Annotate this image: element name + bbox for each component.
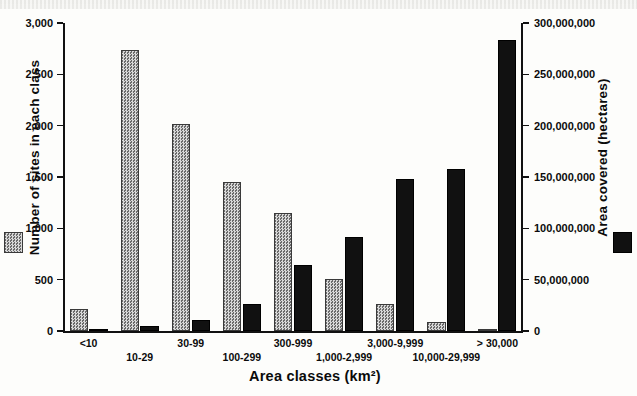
category-label-5: 300-999	[274, 338, 313, 349]
bar-sites-6	[325, 279, 343, 331]
bar-sites-7	[376, 304, 394, 331]
left-tick-label: 0	[47, 326, 53, 337]
bar-sites-2	[121, 50, 139, 331]
category-label-2: 10-29	[126, 352, 153, 363]
category-label-6: 1,000-2,999	[316, 352, 372, 363]
right-tick-label: 250,000,000	[534, 69, 595, 80]
category-label-9: > 30,000	[477, 338, 518, 349]
right-tick-label: 300,000,000	[534, 18, 595, 29]
right-tick-label: 200,000,000	[534, 120, 595, 131]
right-tick-label: 150,000,000	[534, 172, 595, 183]
left-tick-label: 2,000	[25, 120, 53, 131]
left-axis-title: Number of sites in each class	[27, 28, 42, 288]
bar-area-2	[140, 326, 158, 331]
bar-area-1	[89, 329, 107, 331]
left-tick-label: 3,000	[25, 18, 53, 29]
left-tick-mark	[57, 330, 63, 332]
left-tick-mark	[57, 176, 63, 178]
bar-area-8	[447, 169, 465, 331]
left-tick-label: 1,000	[25, 223, 53, 234]
bar-sites-9	[478, 329, 496, 331]
right-tick-label: 50,000,000	[534, 274, 589, 285]
right-tick-mark	[523, 176, 529, 178]
bar-area-9	[498, 40, 516, 331]
plot-area: 05001,0001,5002,0002,5003,000 050,000,00…	[63, 18, 523, 331]
right-tick-mark	[523, 228, 529, 230]
left-tick-mark	[57, 125, 63, 127]
legend-swatch-area	[613, 232, 632, 253]
legend-swatch-sites	[4, 232, 23, 253]
x-axis-line	[63, 331, 523, 333]
right-tick-mark	[523, 125, 529, 127]
bar-sites-3	[172, 124, 190, 331]
right-tick-label: 0	[534, 326, 540, 337]
category-label-4: 100-299	[223, 352, 262, 363]
bar-sites-1	[70, 309, 88, 331]
category-label-1: <10	[80, 338, 98, 349]
left-tick-mark	[57, 74, 63, 76]
bar-area-7	[396, 179, 414, 331]
left-tick-label: 500	[35, 274, 53, 285]
left-tick-mark	[57, 22, 63, 24]
bar-area-4	[243, 304, 261, 331]
right-tick-mark	[523, 279, 529, 281]
left-axis-line	[63, 23, 65, 331]
left-tick-mark	[57, 228, 63, 230]
right-tick-label: 100,000,000	[534, 223, 595, 234]
left-tick-label: 1,500	[25, 172, 53, 183]
bar-area-3	[192, 320, 210, 331]
bar-sites-8	[427, 322, 445, 331]
scan-artifact-band-secondary	[0, 0, 637, 4]
x-axis-title: Area classes (km²)	[150, 368, 480, 384]
category-label-8: 10,000-29,999	[412, 352, 480, 363]
right-tick-mark	[523, 74, 529, 76]
category-label-7: 3,000-9,999	[367, 338, 423, 349]
right-axis-title: Area covered (hectares)	[595, 28, 610, 288]
right-tick-mark	[523, 330, 529, 332]
right-tick-mark	[523, 22, 529, 24]
left-tick-label: 2,500	[25, 69, 53, 80]
category-label-3: 30-99	[177, 338, 204, 349]
bar-area-5	[294, 265, 312, 331]
bar-area-6	[345, 237, 363, 331]
bar-sites-4	[223, 182, 241, 331]
chart-root: Number of sites in each class Area cover…	[0, 0, 637, 396]
bar-sites-5	[274, 213, 292, 331]
left-tick-mark	[57, 279, 63, 281]
